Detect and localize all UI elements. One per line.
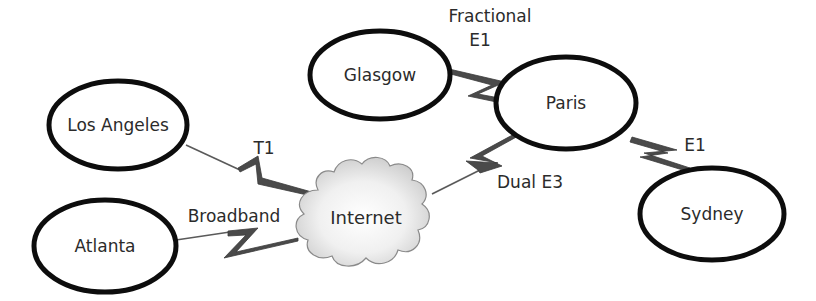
node-label: Glasgow (344, 65, 416, 85)
node-glasgow[interactable]: Glasgow (310, 31, 450, 119)
lightning-bolt-icon (466, 132, 520, 173)
network-diagram: Internet Glasgow Paris Los Angeles Atlan… (0, 0, 816, 301)
internet-label: Internet (330, 207, 401, 228)
node-label: Paris (546, 93, 587, 113)
link-label-t1: T1 (252, 138, 274, 158)
link-atlanta-internet (176, 228, 298, 258)
link-line (432, 170, 480, 194)
link-line (176, 232, 230, 240)
node-paris[interactable]: Paris (496, 57, 636, 149)
node-label: Los Angeles (67, 115, 169, 135)
node-sydney[interactable]: Sydney (640, 168, 784, 260)
link-line (186, 145, 240, 170)
link-label-dual-e3: Dual E3 (497, 172, 563, 192)
link-paris-sydney (630, 137, 690, 171)
node-atlanta[interactable]: Atlanta (34, 200, 176, 292)
lightning-bolt-icon (630, 137, 690, 171)
link-label-e1-glasgow-paris: E1 (469, 30, 491, 50)
node-label: Atlanta (75, 236, 136, 256)
internet-cloud[interactable]: Internet (296, 157, 429, 266)
node-los-angeles[interactable]: Los Angeles (49, 81, 187, 169)
link-label-broadband: Broadband (188, 206, 281, 226)
link-label-fractional: Fractional (449, 6, 532, 26)
node-label: Sydney (681, 204, 744, 224)
link-label-e1-paris-sydney: E1 (684, 135, 706, 155)
lightning-bolt-icon (224, 228, 298, 258)
